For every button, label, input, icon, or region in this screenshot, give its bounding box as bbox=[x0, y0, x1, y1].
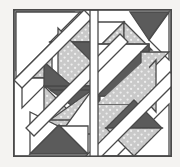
quilt-svg bbox=[0, 0, 180, 167]
quilt-artboard bbox=[0, 0, 180, 167]
sashing-vertical-center bbox=[90, 10, 98, 158]
